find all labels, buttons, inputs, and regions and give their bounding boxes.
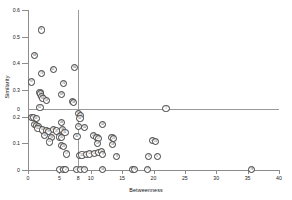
data-point[interactable]: 74: [38, 26, 45, 33]
data-point-label: 44: [83, 126, 86, 129]
horizontal-reference-line: [28, 109, 279, 110]
data-point-label: 45: [77, 125, 80, 128]
data-point-label: 60: [73, 66, 76, 69]
data-point-label: 77: [146, 168, 149, 171]
y-tick: [22, 37, 28, 38]
data-point[interactable]: 77: [144, 166, 151, 173]
data-point[interactable]: 68: [31, 52, 38, 59]
scatter-chart: 08 00.10.20.30.40.50.6 0510152025303540 …: [0, 0, 292, 200]
x-tick: [185, 170, 186, 174]
data-point[interactable]: 8: [113, 153, 120, 160]
data-point[interactable]: 44: [81, 124, 88, 131]
data-point-label: 43: [101, 123, 104, 126]
data-point-label: 69: [60, 93, 63, 96]
data-point-label: 2: [65, 168, 66, 171]
data-point[interactable]: 6: [145, 153, 152, 160]
data-point[interactable]: 43: [99, 121, 106, 128]
x-tick-label: 20: [146, 175, 162, 181]
data-point[interactable]: 5: [154, 153, 161, 160]
vertical-reference-line: [78, 10, 79, 170]
data-point[interactable]: 70: [60, 80, 67, 87]
data-point[interactable]: 60: [71, 64, 78, 71]
data-point-label: 46: [60, 121, 63, 124]
data-point[interactable]: 78: [248, 166, 255, 173]
data-point-label: 35: [64, 131, 67, 134]
data-point-label: 17: [65, 153, 68, 156]
data-point[interactable]: 20: [60, 143, 67, 150]
data-point-label: 5: [157, 155, 158, 158]
data-point[interactable]: 18: [109, 141, 116, 148]
y-tick: [22, 63, 28, 64]
data-point-label: 34: [43, 135, 46, 138]
x-tick: [216, 170, 217, 174]
data-point-label: 53: [35, 117, 38, 120]
data-point[interactable]: 58: [70, 99, 77, 106]
data-point[interactable]: 69: [58, 91, 65, 98]
data-point-label: 19: [96, 142, 99, 145]
data-point[interactable]: 59: [43, 97, 50, 104]
data-point[interactable]: 30: [73, 133, 80, 140]
x-tick-label: 10: [83, 175, 99, 181]
x-tick: [122, 170, 123, 174]
x-tick-label: 15: [114, 175, 130, 181]
data-point[interactable]: 7: [162, 105, 169, 112]
data-point[interactable]: 67: [28, 78, 35, 85]
x-tick-label: 30: [208, 175, 224, 181]
y-tick: [22, 143, 28, 144]
data-point-label: 8: [116, 155, 117, 158]
data-point-label: 7: [165, 107, 166, 110]
data-point-label: 31: [60, 136, 63, 139]
data-point[interactable]: 19: [94, 140, 101, 147]
data-point-label: 58: [72, 102, 75, 105]
data-point-label: 71: [83, 168, 86, 171]
data-point[interactable]: 31: [58, 134, 65, 141]
data-point-label: 59: [45, 99, 48, 102]
data-point-label: 22: [48, 141, 51, 144]
data-point-label: 20: [62, 145, 65, 148]
y-axis-line: [28, 10, 29, 170]
data-point[interactable]: 50: [76, 115, 83, 122]
data-point[interactable]: 56: [99, 166, 106, 173]
data-point-label: 23: [154, 140, 157, 143]
data-point[interactable]: 22: [46, 138, 53, 145]
x-tick-label: 0: [20, 175, 36, 181]
data-point[interactable]: 17: [63, 150, 70, 157]
y-tick-label: 0.3: [0, 87, 20, 93]
x-tick: [154, 170, 155, 174]
y-tick-label: 0: [0, 167, 20, 173]
data-point-label: 37: [55, 130, 58, 133]
data-point[interactable]: 9: [99, 151, 106, 158]
x-tick-label: 40: [271, 175, 287, 181]
x-tick-label: 5: [51, 175, 67, 181]
data-point-label: 62: [38, 106, 41, 109]
horizontal-reference-line-label: 0: [0, 106, 20, 112]
data-point-label: 78: [250, 168, 253, 171]
data-point[interactable]: 61: [50, 66, 57, 73]
data-point-label: 74: [40, 29, 43, 32]
data-point-label: 61: [52, 68, 55, 71]
data-point[interactable]: 76: [131, 166, 138, 173]
x-tick-label: 35: [240, 175, 256, 181]
data-point[interactable]: 71: [81, 166, 88, 173]
data-point-label: 73: [40, 72, 43, 75]
y-tick: [22, 90, 28, 91]
data-point[interactable]: 62: [36, 104, 43, 111]
data-point[interactable]: 46: [58, 119, 65, 126]
data-point-label: 6: [148, 155, 149, 158]
y-tick-label: 0.5: [0, 34, 20, 40]
x-tick: [91, 170, 92, 174]
x-tick: [279, 170, 280, 174]
x-tick-label: 25: [177, 175, 193, 181]
data-point[interactable]: 23: [152, 138, 159, 145]
y-tick-label: 0.1: [0, 140, 20, 146]
data-point[interactable]: 73: [38, 70, 45, 77]
data-point-label: 70: [62, 82, 65, 85]
data-point-label: 25: [112, 137, 115, 140]
data-point-label: 76: [133, 168, 136, 171]
x-axis-title: Betweenness: [0, 187, 292, 193]
data-point[interactable]: 2: [62, 166, 69, 173]
y-tick-label: 0.4: [0, 60, 20, 66]
data-point-label: 18: [111, 143, 114, 146]
data-point-label: 56: [101, 168, 104, 171]
data-point-label: 68: [33, 55, 36, 58]
